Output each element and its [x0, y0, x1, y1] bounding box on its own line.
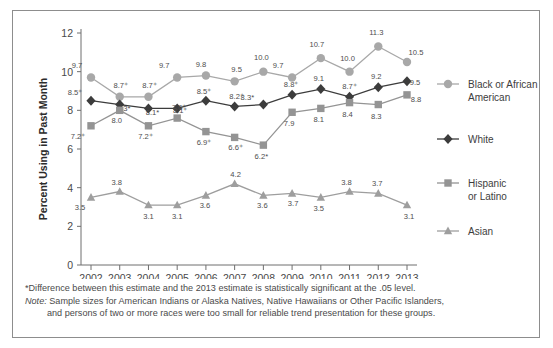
footnote-note-line2: and persons of two or more races were to…: [25, 307, 531, 320]
data-label: 3.5: [75, 203, 86, 212]
x-tick-label: 2013: [395, 272, 419, 279]
data-label: 8.7⁺: [342, 82, 357, 91]
y-tick-label: 2: [67, 220, 73, 232]
y-tick-label: 8: [67, 104, 73, 116]
data-label: 7.2⁺: [138, 132, 153, 141]
marker-circle: [202, 71, 210, 79]
data-label: 8.1: [314, 115, 325, 124]
legend-label-line2: or Latino: [468, 191, 507, 202]
marker-square: [403, 91, 410, 98]
marker-circle: [87, 73, 95, 81]
marker-square: [288, 109, 295, 116]
data-label: 9.5: [410, 78, 421, 87]
marker-diamond: [287, 90, 296, 100]
marker-square: [145, 122, 152, 129]
marker-circle: [345, 67, 353, 75]
x-tick-label: 2008: [252, 272, 276, 279]
data-label: 3.8: [111, 178, 122, 187]
data-label: 9.7: [159, 61, 170, 70]
data-label: 7.2⁺: [71, 132, 86, 141]
data-label: 8.4: [342, 110, 353, 119]
marker-circle: [259, 67, 267, 75]
y-tick-label: 0: [67, 259, 73, 271]
data-label: 8.0: [111, 116, 122, 125]
data-label: 6.6⁺: [228, 143, 243, 152]
series-asian: 3.53.83.13.13.64.23.63.73.53.83.73.1: [75, 170, 415, 221]
marker-triangle: [288, 189, 296, 197]
marker-square: [87, 122, 94, 129]
data-label: 7.6⁺: [172, 103, 187, 112]
data-label: 8.5⁺: [197, 87, 212, 96]
marker-circle: [444, 80, 452, 88]
y-tick-label: 4: [67, 182, 73, 194]
line-chart-svg: 024681012Percent Using in Past Month2002…: [13, 11, 541, 279]
data-label: 3.6: [257, 201, 268, 210]
marker-circle: [173, 73, 181, 81]
legend-label: Hispanic: [468, 178, 506, 189]
data-label: 8.8⁺: [284, 80, 299, 89]
data-label: 8.1*: [146, 108, 160, 117]
footnote-note-line1: Note: Sample sizes for American Indians …: [25, 295, 531, 308]
marker-square: [231, 134, 238, 141]
figure-frame: 024681012Percent Using in Past Month2002…: [12, 10, 540, 338]
data-label: 10.7: [309, 40, 324, 49]
data-label: 3.8: [341, 178, 352, 187]
x-tick-label: 2007: [223, 272, 247, 279]
chart-plot-area: 024681012Percent Using in Past Month2002…: [13, 11, 541, 279]
data-label: 3.7: [372, 179, 383, 188]
marker-square: [260, 141, 267, 148]
data-label: 3.5: [314, 204, 325, 213]
marker-diamond: [443, 134, 452, 144]
data-label: 9.2: [371, 72, 382, 81]
data-label: 3.1: [143, 212, 154, 221]
data-label: 3.7: [288, 199, 299, 208]
marker-diamond: [86, 96, 95, 106]
data-label: 9.7: [273, 61, 284, 70]
series-hispanic-or-latino: 7.2⁺8.07.2⁺7.6⁺6.9⁺6.6⁺6.2*7.98.18.48.38…: [71, 91, 422, 161]
marker-triangle: [230, 179, 238, 187]
data-label: 10.5: [409, 48, 424, 57]
data-label: 9.7: [72, 61, 83, 70]
marker-diamond: [316, 84, 325, 94]
data-label: 8.8: [411, 95, 422, 104]
marker-triangle: [116, 187, 124, 195]
legend-item-black-or-african-american[interactable]: Black or AfricanAmerican: [437, 79, 537, 103]
legend-item-white[interactable]: White: [437, 134, 494, 145]
marker-diamond: [374, 82, 383, 92]
x-tick-label: 2004: [137, 272, 161, 279]
legend-item-asian[interactable]: Asian: [437, 226, 493, 237]
data-label: 3.1: [172, 212, 183, 221]
data-label: 8.5⁺: [68, 88, 83, 97]
data-label: 8.7⁺: [113, 81, 128, 90]
data-label: 10.0: [340, 54, 355, 63]
marker-circle: [230, 77, 238, 85]
data-label: 6.9⁺: [197, 138, 212, 147]
x-tick-label: 2005: [166, 272, 190, 279]
marker-diamond: [201, 96, 210, 106]
data-label: 6.2*: [255, 152, 269, 161]
data-label: 9.8: [196, 60, 207, 69]
footnote-significance: *Difference between this estimate and th…: [25, 282, 531, 295]
note-text-line1: Sample sizes for American Indians or Ala…: [47, 296, 444, 306]
marker-circle: [403, 58, 411, 66]
marker-square: [346, 99, 353, 106]
y-axis-title: Percent Using in Past Month: [37, 78, 49, 220]
marker-circle: [317, 54, 325, 62]
marker-diamond: [230, 101, 239, 111]
note-label: Note:: [25, 296, 47, 306]
x-tick-label: 2006: [194, 272, 218, 279]
legend-item-hispanic-or-latino[interactable]: Hispanicor Latino: [437, 178, 507, 202]
legend-label: Black or African: [468, 79, 537, 90]
legend-label-line2: American: [468, 92, 510, 103]
marker-square: [116, 107, 123, 114]
legend-label: Asian: [468, 226, 493, 237]
data-label: 4.2: [230, 170, 241, 179]
y-tick-label: 6: [67, 143, 73, 155]
data-label: 9.1: [314, 74, 325, 83]
marker-diamond: [259, 100, 268, 110]
data-label: 8.7⁺: [142, 81, 157, 90]
marker-triangle: [345, 187, 353, 195]
marker-circle: [144, 93, 152, 101]
x-tick-label: 2003: [108, 272, 132, 279]
legend-label: White: [468, 134, 494, 145]
